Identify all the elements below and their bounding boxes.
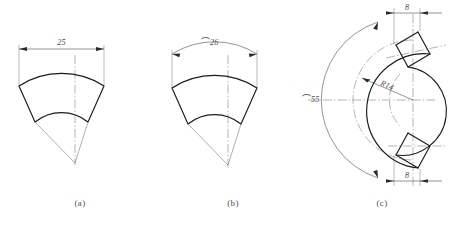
caption-a: (a) (0, 198, 160, 208)
arrowhead-right-a (96, 47, 104, 51)
dimension-label-top-c: 8 (405, 3, 409, 12)
arrowhead-left-b (172, 54, 180, 58)
dimension-label-b: 26 (210, 38, 218, 47)
radial-line-right-a (75, 122, 88, 163)
arrowhead-right-b (249, 54, 257, 58)
arrowhead-top-right-c (420, 11, 428, 15)
dimension-label-a: 25 (57, 38, 65, 47)
figure-a: 25 (0, 0, 160, 230)
radial-line-left-b (188, 124, 228, 165)
lower-arm-flank-c (408, 133, 430, 146)
figure-c: 8 8 R14 ⌒ 55 (300, 0, 464, 230)
sector-outline-a (19, 73, 104, 122)
dimension-label-bottom-c: 8 (405, 171, 409, 180)
arrowhead-top-left-c (386, 11, 394, 15)
arc-symbol-b: ⌒ (201, 37, 210, 47)
arc-symbol-c: ⌒ (302, 94, 311, 104)
caption-b: (b) (158, 198, 308, 208)
radial-line-right-b (228, 124, 241, 165)
arrowhead-bottom-right-c (420, 179, 428, 183)
dimension-label-outer-arc-c: 55 (311, 95, 319, 104)
drawing-sheet: 25 (a) ⌒ 26 (b) (0, 0, 464, 230)
caption-c: (c) (300, 198, 464, 208)
figure-b: ⌒ 26 (158, 0, 308, 230)
radial-line-left-a (35, 122, 75, 163)
sector-outline-b (172, 75, 257, 124)
upper-arm-flank-c (408, 54, 430, 67)
arrowhead-left-a (19, 47, 27, 51)
radius-arrowhead-c (362, 78, 370, 83)
arrowhead-bottom-left-c (386, 179, 394, 183)
center-line-upper-arm-c (386, 45, 446, 58)
upper-arm-end-face-c (396, 32, 418, 45)
radius-label-c: R14 (378, 78, 395, 92)
